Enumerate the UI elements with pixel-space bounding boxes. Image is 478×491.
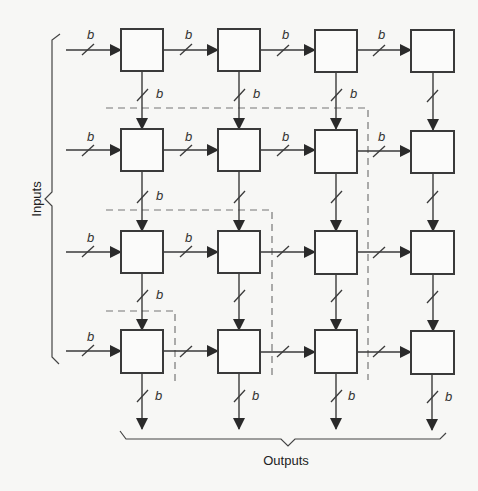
- inputs-brace: [45, 34, 60, 364]
- pe-r4c1: [121, 330, 163, 373]
- b-label: b: [87, 329, 94, 344]
- pe-r3c3: [315, 231, 357, 274]
- b-label: b: [87, 27, 94, 42]
- b-label: b: [156, 188, 163, 203]
- b-label: b: [87, 230, 94, 245]
- b-label: b: [156, 287, 163, 302]
- outputs-brace: [120, 431, 446, 446]
- b-label: b: [185, 129, 192, 144]
- pe-r3c2: [218, 231, 260, 273]
- pe-r1c3: [315, 30, 357, 72]
- b-label: b: [156, 86, 163, 101]
- processing-elements: [121, 29, 454, 374]
- b-label: b: [378, 27, 385, 42]
- b-label: b: [253, 86, 260, 101]
- outputs-label: Outputs: [263, 453, 309, 468]
- pe-r2c3: [315, 130, 357, 173]
- b-label: b: [282, 129, 289, 144]
- b-label: b: [282, 27, 289, 42]
- inputs-label: Inputs: [29, 181, 44, 217]
- pe-r4c3: [315, 330, 357, 373]
- b-label: b: [378, 129, 385, 144]
- b-label: b: [185, 230, 192, 245]
- pe-r4c4: [411, 331, 454, 374]
- b-label: b: [348, 388, 355, 403]
- b-label: b: [350, 86, 357, 101]
- pe-r3c1: [121, 231, 163, 273]
- pe-r1c2: [218, 29, 260, 71]
- b-label: b: [252, 388, 259, 403]
- pe-r1c1: [121, 29, 163, 71]
- pe-r2c2: [218, 129, 260, 171]
- pe-r2c1: [121, 129, 163, 171]
- pe-r1c4: [411, 30, 454, 72]
- systolic-array-diagram: b b b b b b b b b b b b b b b b b b b b …: [0, 0, 478, 491]
- pe-r3c4: [411, 231, 454, 274]
- b-label: b: [445, 389, 452, 404]
- b-label: b: [87, 129, 94, 144]
- b-label: b: [185, 27, 192, 42]
- pe-r2c4: [411, 131, 454, 173]
- pe-r4c2: [218, 330, 260, 373]
- b-label: b: [155, 388, 162, 403]
